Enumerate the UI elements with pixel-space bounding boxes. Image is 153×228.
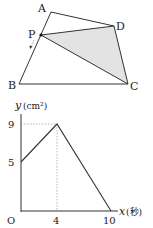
x-axis-unit: (秒) [126,206,142,217]
label-a: A [37,2,47,15]
tick-10: 10 [103,215,116,226]
label-b: B [8,79,16,92]
origin-label: O [7,215,15,226]
point-p [39,33,42,36]
area-time-graph: y (cm²) 9 5 O 4 10 x (秒) [7,99,142,226]
direction-arrow-line [31,40,34,47]
label-c: C [130,80,138,93]
quadrilateral-diagram: A D P B C [8,2,138,93]
tick-9: 9 [8,119,14,130]
label-d: D [116,20,125,33]
arrow-down-icon [30,46,33,50]
label-p: P [28,28,36,41]
y-axis-variable: y [14,99,22,112]
data-line [21,124,111,211]
x-axis-variable: x [119,205,126,218]
figure-canvas: A D P B C y (cm²) 9 5 O 4 10 x (秒) [0,0,153,228]
y-axis-unit: (cm²) [23,101,47,111]
tick-4: 4 [53,215,59,226]
tick-5: 5 [8,157,14,168]
shaded-triangle-pdc [41,26,128,84]
